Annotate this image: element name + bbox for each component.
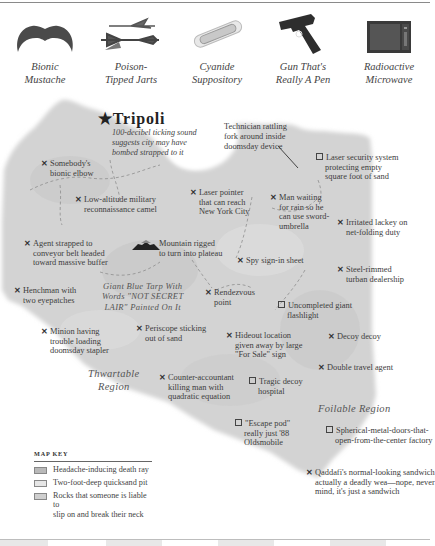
star-icon: ★ <box>98 110 113 127</box>
x-mark-icon: ✕ <box>270 193 279 203</box>
marker-double-travel-agent: ✕Double travel agent <box>318 363 393 373</box>
marker-decoy-decoy: ✕Decoy decoy <box>328 332 381 342</box>
marker-turban: ✕Steel-rimmed turban dealership <box>337 265 404 284</box>
marker-spy-sign: ✕Spy sign-in sheet <box>237 256 304 266</box>
x-mark-icon: ✕ <box>75 195 84 205</box>
gadget-label: Gun That's <box>280 61 326 72</box>
gadget-gun-pen: Gun That'sReally A Pen <box>260 8 346 86</box>
x-mark-icon: ✕ <box>226 331 235 341</box>
x-mark-icon: ✕ <box>190 188 199 198</box>
marker-laser-pointer: ✕Laser pointer that can reach New York C… <box>190 188 250 217</box>
square-marker-icon <box>249 377 256 384</box>
x-mark-icon: ✕ <box>205 288 214 298</box>
darts-icon <box>99 16 163 54</box>
marker-factory: Spherical-metal-doors-that- open-from-th… <box>326 426 432 445</box>
city-note: 100-decibel ticking sound suggests city … <box>112 128 197 157</box>
x-mark-icon: ✕ <box>41 327 50 337</box>
gadget-jarts: Poison-Tipped Jarts <box>88 8 174 86</box>
x-mark-icon: ✕ <box>337 218 346 228</box>
marker-henchman: ✕Henchman with two eyepatches <box>14 286 76 305</box>
marker-rendezvous: ✕Rendezvous point <box>205 288 255 307</box>
tarp-label: Giant Blue Tarp With Words "NOT SECRET L… <box>102 281 183 312</box>
x-mark-icon: ✕ <box>14 286 23 296</box>
technician-note: Technician rattling fork around inside d… <box>224 122 287 151</box>
gadget-radioactive-microwave: RadioactiveMicrowave <box>346 8 432 86</box>
swatch-icon <box>34 467 47 474</box>
square-marker-icon <box>278 301 285 308</box>
marker-minion: ✕Minion having trouble loading doomsday … <box>41 327 109 356</box>
pistol-icon <box>275 10 331 54</box>
swatch-icon <box>34 480 47 487</box>
map-key-item: Headache-inducing death ray <box>34 465 152 475</box>
map-key-item: Two-foot-deep quicksand pit <box>34 478 152 488</box>
thwartable-region-label: Thwartable Region <box>88 367 139 393</box>
marker-escape-pod: "Escape pod" really just '88 Oldsmobile <box>235 419 290 448</box>
gadget-label: Bionic <box>31 61 58 72</box>
marker-sandwich: ✕Qaddafi's normal-looking sandwich actua… <box>306 468 435 497</box>
map-key-item: Rocks that someone is liable toslip on a… <box>34 491 152 520</box>
square-marker-icon <box>316 153 323 160</box>
gadget-label: Cyanide <box>200 61 235 72</box>
gadget-bionic-mustache: BionicMustache <box>2 8 88 86</box>
x-mark-icon: ✕ <box>237 256 246 266</box>
marker-laser-security: Laser security system protecting empty s… <box>316 153 399 182</box>
marker-hospital: Tragic decoy hospital <box>249 377 303 396</box>
marker-flashlight: Uncompleted giant flashlight <box>278 301 352 320</box>
bottom-tab <box>330 540 386 546</box>
marker-hideout: ✕Hideout location given away by large "F… <box>226 331 303 360</box>
square-marker-icon <box>235 419 242 426</box>
map-key-title: MAP KEY <box>34 450 152 462</box>
gadget-label: Poison- <box>115 61 148 72</box>
city-tripoli: ★Tripoli <box>98 109 165 128</box>
microwave-icon <box>366 20 412 54</box>
bottom-tab <box>0 540 48 546</box>
gadget-cyanide-suppository: CyanideSuppository <box>174 8 260 86</box>
top-rule <box>0 2 430 3</box>
map-key: MAP KEY Headache-inducing death ray Two-… <box>34 450 152 520</box>
x-mark-icon: ✕ <box>41 159 50 169</box>
x-mark-icon: ✕ <box>306 468 315 478</box>
foilable-region-label: Foilable Region <box>318 402 390 415</box>
city-name: Tripoli <box>113 110 165 127</box>
swatch-icon <box>34 493 47 500</box>
marker-man-waiting: ✕Man waiting for rain so he can use swor… <box>270 193 329 231</box>
bottom-tab <box>218 540 274 546</box>
marker-lackey: ✕Irritated lackey on net-folding duty <box>337 218 407 237</box>
x-mark-icon: ✕ <box>159 373 168 383</box>
marker-accountant: ✕Counter-accountant killing man with qua… <box>159 373 234 402</box>
marker-agent: ✕Agent strapped to conveyor belt headed … <box>24 239 108 268</box>
bottom-tab <box>106 540 162 546</box>
x-mark-icon: ✕ <box>318 363 327 373</box>
marker-camel: ✕Low-altitude military reconnaissance ca… <box>75 195 157 214</box>
capsule-icon <box>187 14 247 54</box>
x-mark-icon: ✕ <box>24 239 33 249</box>
square-marker-icon <box>326 426 333 433</box>
marker-mountain: Mountain rigged to turn into plateau <box>159 239 223 258</box>
x-mark-icon: ✕ <box>337 265 346 275</box>
x-mark-icon: ✕ <box>328 332 337 342</box>
x-mark-icon: ✕ <box>136 324 145 334</box>
marker-periscope: ✕Periscope sticking out of sand <box>136 324 206 343</box>
gadget-label: Radioactive <box>364 61 414 72</box>
marker-bionic-elbow: ✕Somebody's bionic elbow <box>41 159 94 178</box>
mustache-icon <box>14 20 76 54</box>
